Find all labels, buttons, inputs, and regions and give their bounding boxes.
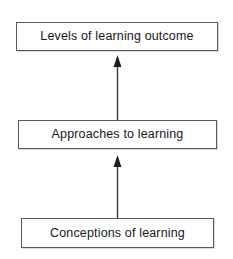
node-label: Approaches to learning <box>52 128 184 141</box>
node-conceptions-of-learning[interactable]: Conceptions of learning <box>21 218 214 248</box>
node-approaches-to-learning[interactable]: Approaches to learning <box>18 120 217 149</box>
arrow-up-icon-conceptions-to-approaches <box>104 151 132 219</box>
arrow-up-icon-approaches-to-levels <box>104 51 132 121</box>
node-levels-of-learning-outcome[interactable]: Levels of learning outcome <box>16 22 218 51</box>
node-label: Conceptions of learning <box>50 227 185 240</box>
diagram-canvas: Levels of learning outcome Approaches to… <box>0 0 233 259</box>
node-label: Levels of learning outcome <box>40 30 193 43</box>
